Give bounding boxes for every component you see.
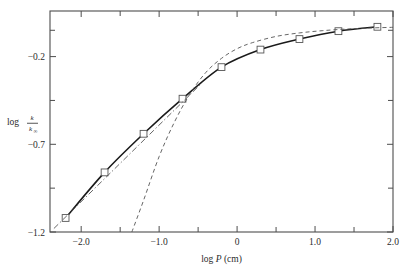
- x-axis-title: log P (cm): [201, 254, 242, 265]
- y-axis-tick-label-0: −0.2: [28, 52, 45, 62]
- x-axis-tick-label-0: −2.0: [73, 237, 90, 247]
- x-axis-tick-label-1: −1.0: [151, 237, 168, 247]
- data-point-marker: [101, 169, 108, 176]
- y-axis-tick-label-1: −0.7: [28, 140, 45, 150]
- x-axis-tick-label-2: 0: [235, 237, 240, 247]
- data-point-marker: [62, 215, 69, 222]
- data-point-marker: [179, 95, 186, 102]
- x-axis-tick-label-3: 1.0: [309, 237, 321, 247]
- chart-canvas: −2.0−1.001.02.0−0.2−0.7−1.2log P (cm)log…: [0, 0, 406, 268]
- figure-background: [0, 0, 406, 268]
- y-axis-title-denominator-subscript: ∞: [34, 128, 38, 134]
- figure-container: −2.0−1.001.02.0−0.2−0.7−1.2log P (cm)log…: [0, 0, 406, 268]
- y-axis-title-prefix: log: [7, 117, 19, 127]
- data-point-marker: [335, 28, 342, 35]
- data-point-marker: [296, 36, 303, 43]
- data-point-marker: [140, 130, 147, 137]
- y-axis-tick-label-2: −1.2: [28, 228, 45, 238]
- data-point-marker: [218, 64, 225, 71]
- x-axis-tick-label-4: 2.0: [387, 237, 399, 247]
- data-point-marker: [374, 23, 381, 30]
- data-point-marker: [257, 46, 264, 53]
